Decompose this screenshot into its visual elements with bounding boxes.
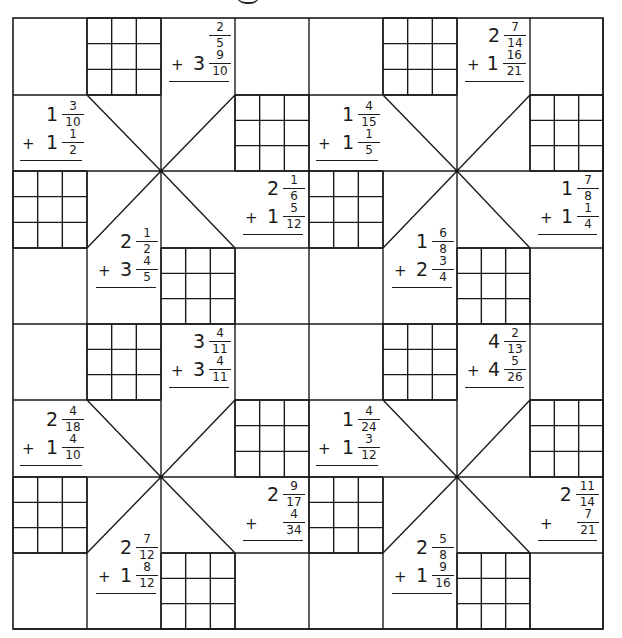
fraction: 2 5 bbox=[211, 21, 229, 50]
fraction: 11 14 bbox=[578, 480, 597, 509]
fraction: 5 26 bbox=[506, 355, 524, 384]
denominator: 2 bbox=[69, 143, 77, 157]
addend-bottom: 7 21 bbox=[562, 507, 597, 537]
addend-bottom: 1 5 12 bbox=[267, 201, 303, 231]
addend-top: 1 7 8 bbox=[561, 173, 597, 203]
numerator: 5 bbox=[432, 533, 454, 548]
addend-top: 2 1 2 bbox=[120, 226, 156, 256]
numerator: 4 bbox=[62, 405, 84, 420]
numerator: 8 bbox=[136, 561, 158, 576]
answer-line bbox=[243, 540, 303, 541]
addition-problem-p5: 2 7 14 1 16 21 + bbox=[465, 20, 524, 86]
addition-problem-p16: 2 5 8 1 9 16 + bbox=[392, 532, 452, 598]
numerator: 4 bbox=[358, 100, 380, 115]
plus-sign: + bbox=[394, 262, 407, 280]
addition-problem-p7: 1 7 8 1 1 4 + bbox=[538, 173, 597, 239]
addend-top: 2 1 6 bbox=[267, 173, 303, 203]
plus-sign: + bbox=[98, 568, 111, 586]
addition-problem-p13: 4 2 13 4 5 26 + bbox=[465, 326, 524, 392]
center-dot bbox=[159, 475, 163, 479]
numerator: 9 bbox=[209, 49, 231, 64]
answer-line bbox=[169, 81, 229, 82]
addend-bottom: 4 34 bbox=[268, 507, 303, 537]
fraction: 7 8 bbox=[579, 174, 597, 203]
fraction: 4 34 bbox=[285, 508, 303, 537]
denominator: 11 bbox=[212, 370, 227, 384]
fraction: 6 8 bbox=[434, 227, 452, 256]
numerator: 7 bbox=[504, 21, 526, 36]
whole-number: 1 bbox=[267, 205, 279, 227]
fraction: 1 2 bbox=[138, 227, 156, 256]
plus-sign: + bbox=[540, 515, 553, 533]
addend-top: 2 4 18 bbox=[46, 404, 82, 434]
addition-problem-p9: 3 4 11 3 4 11 + bbox=[169, 326, 229, 392]
answer-line bbox=[316, 465, 378, 466]
answer-line bbox=[392, 287, 452, 288]
numerator: 3 bbox=[432, 255, 454, 270]
denominator: 5 bbox=[365, 143, 373, 157]
fraction: 3 4 bbox=[434, 255, 452, 284]
denominator: 34 bbox=[286, 523, 301, 537]
center-dot bbox=[455, 169, 459, 173]
whole-number: 2 bbox=[46, 408, 58, 430]
fraction: 2 13 bbox=[506, 327, 524, 356]
addition-problem-p10: 2 4 18 1 4 10 + bbox=[20, 404, 82, 470]
addend-bottom: 1 4 10 bbox=[46, 432, 82, 462]
addend-top: 2 7 14 bbox=[488, 20, 524, 50]
denominator: 16 bbox=[435, 576, 450, 590]
answer-line bbox=[243, 234, 303, 235]
addend-bottom: 3 4 11 bbox=[193, 354, 229, 384]
addend-bottom: 1 1 2 bbox=[46, 127, 82, 157]
center-dot bbox=[455, 475, 459, 479]
addend-top: 1 4 24 bbox=[342, 404, 378, 434]
addend-bottom: 1 1 5 bbox=[342, 127, 378, 157]
numerator: 4 bbox=[62, 433, 84, 448]
plus-sign: + bbox=[318, 135, 331, 153]
numerator: 16 bbox=[503, 49, 526, 64]
answer-line bbox=[538, 234, 597, 235]
denominator: 26 bbox=[507, 370, 522, 384]
whole-number: 1 bbox=[561, 177, 573, 199]
addend-top: 2 7 12 bbox=[120, 532, 156, 562]
denominator: 5 bbox=[143, 270, 151, 284]
fraction: 1 2 bbox=[64, 128, 82, 157]
addend-bottom: 2 3 4 bbox=[416, 254, 452, 284]
numerator: 4 bbox=[209, 327, 231, 342]
numerator: 4 bbox=[358, 405, 380, 420]
fraction: 4 5 bbox=[138, 255, 156, 284]
whole-number: 3 bbox=[193, 52, 205, 74]
whole-number: 2 bbox=[267, 177, 279, 199]
whole-number: 2 bbox=[488, 24, 500, 46]
whole-number: 1 bbox=[416, 230, 428, 252]
whole-number: 1 bbox=[342, 436, 354, 458]
plus-sign: + bbox=[22, 440, 35, 458]
whole-number: 3 bbox=[120, 258, 132, 280]
fraction: 4 15 bbox=[360, 100, 378, 129]
whole-number: 2 bbox=[120, 536, 132, 558]
addend-top: 4 2 13 bbox=[488, 326, 524, 356]
fraction: 7 12 bbox=[138, 533, 156, 562]
addend-bottom: 1 16 21 bbox=[487, 48, 524, 78]
fraction: 4 11 bbox=[211, 327, 229, 356]
whole-number: 1 bbox=[120, 564, 132, 586]
fraction: 4 18 bbox=[64, 405, 82, 434]
numerator: 1 bbox=[577, 202, 599, 217]
fraction: 16 21 bbox=[505, 49, 524, 78]
numerator: 5 bbox=[283, 202, 305, 217]
fraction: 4 11 bbox=[211, 355, 229, 384]
fraction: 4 10 bbox=[64, 433, 82, 462]
numerator: 9 bbox=[283, 480, 305, 495]
whole-number: 1 bbox=[487, 52, 499, 74]
fraction: 9 10 bbox=[211, 49, 229, 78]
numerator: 7 bbox=[577, 174, 599, 189]
answer-line bbox=[538, 540, 597, 541]
answer-line bbox=[465, 387, 524, 388]
addition-problem-p14: 1 4 24 1 3 12 + bbox=[316, 404, 378, 470]
plus-sign: + bbox=[318, 440, 331, 458]
fraction: 1 4 bbox=[579, 202, 597, 231]
numerator: 1 bbox=[358, 128, 380, 143]
addend-bottom: 3 4 5 bbox=[120, 254, 156, 284]
addend-top: 2 11 14 bbox=[560, 479, 597, 509]
numerator: 3 bbox=[62, 100, 84, 115]
denominator: 12 bbox=[286, 217, 301, 231]
